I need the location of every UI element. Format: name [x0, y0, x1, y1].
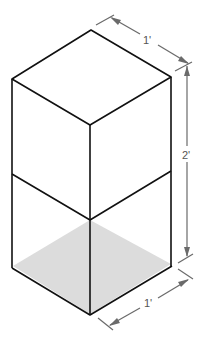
isometric-diagram: 1' 2' 1' — [0, 0, 205, 343]
top-width-dimension: 1' — [96, 15, 192, 71]
height-dimension: 2' — [178, 66, 193, 263]
middle-divider — [12, 171, 171, 220]
top-width-label: 1' — [143, 34, 151, 46]
bottom-width-label: 1' — [144, 297, 152, 309]
height-label: 2' — [182, 149, 190, 161]
